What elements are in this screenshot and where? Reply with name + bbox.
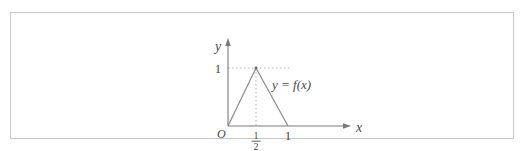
origin-label: O — [217, 127, 226, 141]
figure-frame: y x O 1 1 2 1 y = f(x) — [10, 12, 514, 139]
peak-point-marker — [255, 67, 258, 70]
y-tick-label-one: 1 — [215, 61, 222, 76]
function-graph-figure: y x O 1 1 2 1 y = f(x) — [206, 35, 371, 150]
coordinate-plot-svg: y x O 1 1 2 1 y = f(x) — [206, 35, 371, 150]
y-axis-label: y — [213, 39, 222, 54]
x-tick-label-half-denominator: 2 — [254, 141, 259, 151]
curve-equation-label: y = f(x) — [270, 77, 311, 92]
x-tick-label-one: 1 — [285, 128, 292, 143]
x-tick-label-half-numerator: 1 — [254, 130, 259, 141]
x-axis-arrow-icon — [343, 123, 351, 129]
screenshot-canvas: y x O 1 1 2 1 y = f(x) — [0, 0, 525, 151]
x-axis-label: x — [355, 120, 363, 135]
y-axis-arrow-icon — [225, 38, 231, 46]
